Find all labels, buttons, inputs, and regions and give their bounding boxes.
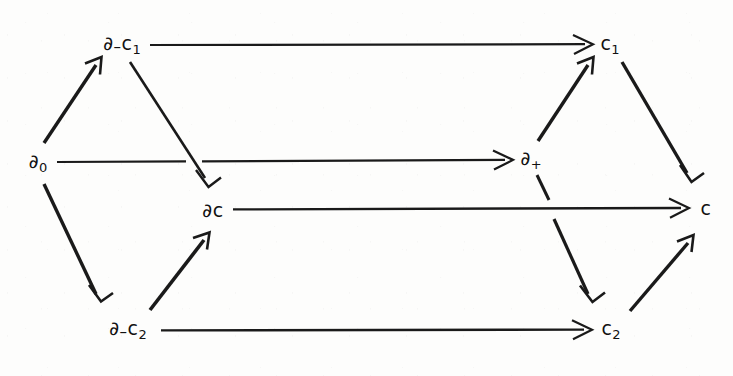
node-label-dmc2: ∂–c2 <box>109 319 147 342</box>
node-label-c2: c2 <box>601 319 620 342</box>
node-label-dplus: ∂+ <box>520 149 541 172</box>
edge-d0-to-dmc2 <box>44 184 113 302</box>
commutative-diagram-canvas: ∂0 ∂–c1 ∂c ∂–c2 ∂+ c1 c c2 <box>0 0 733 376</box>
edge-c1-to-c <box>622 62 704 182</box>
node-label-d0: ∂0 <box>29 152 48 175</box>
node-label-dc: ∂c <box>202 201 223 220</box>
node-label-dmc1: ∂–c1 <box>103 34 141 57</box>
edge-dplus-to-c2 <box>537 175 605 302</box>
edge-dmc1-to-c1 <box>150 35 593 54</box>
edge-d0-to-dmc1 <box>44 57 102 143</box>
node-label-c1: c1 <box>600 34 619 57</box>
edge-dc-to-c <box>233 199 689 218</box>
node-label-c: c <box>701 199 712 218</box>
edge-dmc1-to-dc <box>130 62 221 187</box>
edge-dplus-to-c1 <box>538 57 594 141</box>
edge-dmc2-to-c2 <box>161 320 592 339</box>
edge-c2-to-c <box>630 235 694 311</box>
edge-dmc2-to-dc <box>150 233 210 311</box>
edge-d0-to-dplus <box>57 151 513 170</box>
